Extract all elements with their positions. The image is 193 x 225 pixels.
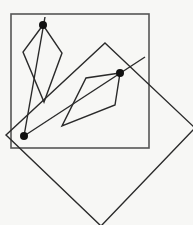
right-point <box>116 69 124 77</box>
bottom-left-point <box>20 132 28 140</box>
left-kite <box>23 25 62 102</box>
right-kite <box>62 73 120 126</box>
top-point <box>39 21 47 29</box>
geometry-svg <box>0 0 193 225</box>
diagram-canvas <box>0 0 193 225</box>
axis-aligned-square <box>11 14 149 148</box>
rotated-square <box>6 43 193 225</box>
vertical-connector-line <box>24 17 45 136</box>
